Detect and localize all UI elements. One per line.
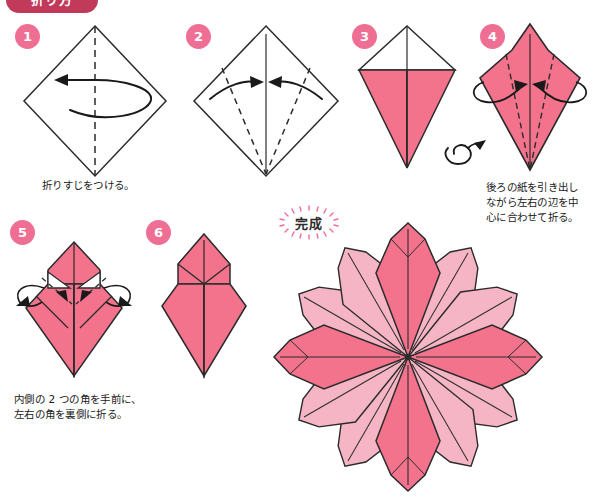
turn-over-loop-path [446, 145, 471, 164]
step-badge-5: 5 [10, 220, 35, 245]
arrow-head-turn-over [474, 140, 486, 150]
step-1-caption: 折りすじをつける。 [42, 178, 135, 193]
origami-instruction-page: 折り方 1 折りすじをつける。 2 3 [0, 0, 599, 503]
step-6-diagram [152, 230, 257, 380]
kite-bottom-left-pink [359, 70, 407, 168]
petal-left-pink [162, 284, 204, 376]
petal-right-pink [204, 284, 246, 376]
step-badge-6: 6 [146, 220, 171, 245]
turn-over-icon [440, 134, 492, 176]
step-badge-4: 4 [480, 24, 505, 49]
finished-flower-diagram [258, 212, 558, 502]
flower-center [405, 354, 411, 360]
kansei-label: 完成 [270, 205, 348, 239]
kansei-stamp: 完成 [270, 205, 348, 239]
flower-petals-group [274, 223, 542, 491]
step-badge-1: 1 [15, 24, 40, 49]
step-badge-3: 3 [352, 24, 377, 49]
page-banner: 折り方 [6, 0, 98, 13]
step-5-caption: 内側の 2 つの角を手前に、 左右の角を裏側に折る。 [14, 392, 142, 422]
step-2-diagram [188, 22, 343, 180]
step-1-diagram [20, 22, 170, 180]
step-badge-2: 2 [186, 24, 211, 49]
